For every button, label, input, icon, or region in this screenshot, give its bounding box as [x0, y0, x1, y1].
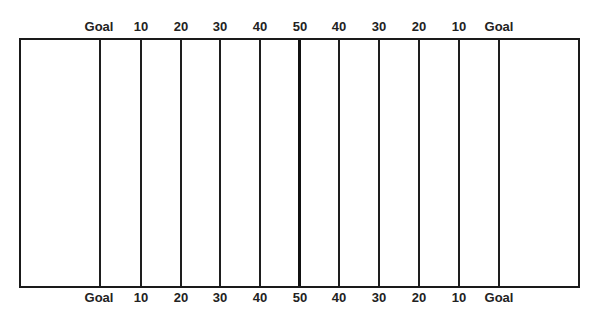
bottom-label-10-right: 10: [452, 290, 466, 306]
bottom-label-30-right: 30: [372, 290, 386, 306]
bottom-label-20-left: 20: [174, 290, 188, 306]
bottom-label-30-left: 30: [213, 290, 227, 306]
football-field: [19, 38, 580, 288]
top-label-40-right: 40: [332, 19, 346, 35]
goal-line-left: [99, 40, 101, 286]
top-label-20-left: 20: [174, 19, 188, 35]
bottom-label-40-left: 40: [253, 290, 267, 306]
top-label-30-left: 30: [213, 19, 227, 35]
bottom-label-goal-left: Goal: [85, 290, 114, 306]
yard-line-20-left: [180, 40, 182, 286]
bottom-label-goal-right: Goal: [485, 290, 514, 306]
yard-line-40-left: [259, 40, 261, 286]
top-label-30-right: 30: [372, 19, 386, 35]
yard-line-50: [298, 40, 301, 286]
bottom-label-50: 50: [293, 290, 307, 306]
bottom-label-10-left: 10: [134, 290, 148, 306]
top-label-20-right: 20: [412, 19, 426, 35]
top-label-goal-left: Goal: [85, 19, 114, 35]
top-label-40-left: 40: [253, 19, 267, 35]
yard-line-40-right: [338, 40, 340, 286]
bottom-label-20-right: 20: [412, 290, 426, 306]
bottom-label-40-right: 40: [332, 290, 346, 306]
goal-line-right: [498, 40, 500, 286]
top-label-goal-right: Goal: [485, 19, 514, 35]
yard-line-20-right: [418, 40, 420, 286]
top-yard-labels: Goal 10 20 30 40 50 40 30 20 10 Goal: [0, 19, 593, 35]
yard-line-30-left: [219, 40, 221, 286]
yard-line-10-right: [458, 40, 460, 286]
top-label-50: 50: [293, 19, 307, 35]
top-label-10-right: 10: [452, 19, 466, 35]
top-label-10-left: 10: [134, 19, 148, 35]
bottom-yard-labels: Goal 10 20 30 40 50 40 30 20 10 Goal: [0, 290, 593, 306]
yard-line-10-left: [140, 40, 142, 286]
yard-line-30-right: [378, 40, 380, 286]
